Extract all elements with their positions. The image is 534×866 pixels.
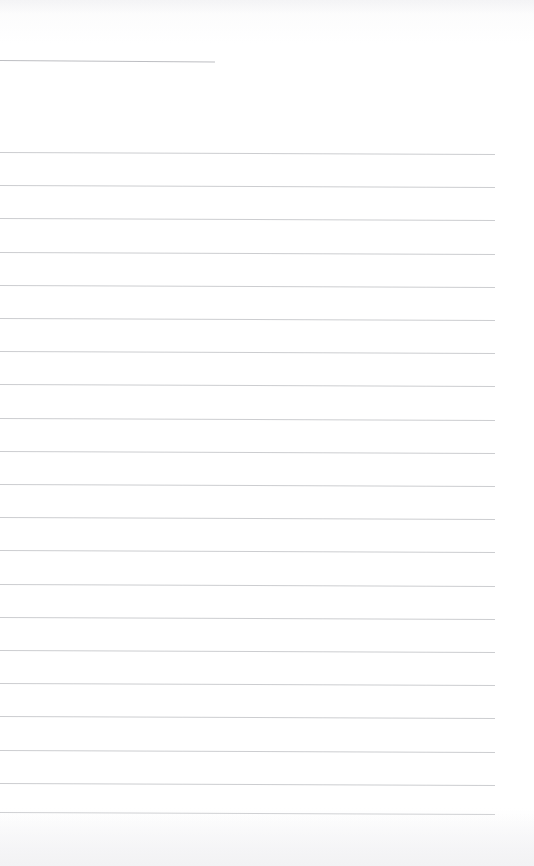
rule-01 <box>0 152 495 155</box>
paper-texture-overlay <box>0 0 534 866</box>
rule-09 <box>0 418 495 421</box>
rule-12 <box>0 517 495 520</box>
rule-16 <box>0 650 495 653</box>
rule-21 <box>0 812 495 815</box>
rule-14 <box>0 584 495 587</box>
rule-17 <box>0 683 495 686</box>
notebook-page <box>0 0 534 866</box>
rule-03 <box>0 218 495 221</box>
rule-10 <box>0 451 495 454</box>
rule-02 <box>0 185 495 188</box>
rule-15 <box>0 617 495 620</box>
rule-18 <box>0 716 495 719</box>
rule-06 <box>0 318 495 321</box>
rule-04 <box>0 252 495 255</box>
rule-19 <box>0 750 495 753</box>
header-rule <box>0 60 215 62</box>
rule-05 <box>0 285 495 288</box>
scan-band-top <box>0 0 534 14</box>
rule-13 <box>0 550 495 553</box>
scan-band-bottom <box>0 808 534 866</box>
rule-11 <box>0 484 495 487</box>
rule-20 <box>0 783 495 786</box>
rule-07 <box>0 351 495 354</box>
rule-08 <box>0 384 495 387</box>
